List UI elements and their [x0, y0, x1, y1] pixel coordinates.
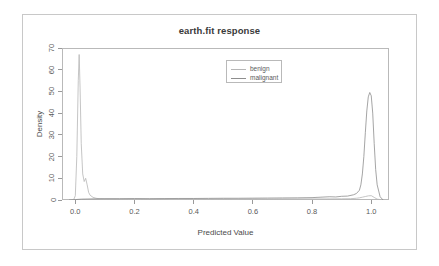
x-tick-mark: [371, 200, 372, 204]
y-tick-label: 60: [46, 66, 55, 74]
chart-screenshot: earth.fit response Density Predicted Val…: [0, 0, 439, 266]
y-tick-mark: [58, 134, 62, 135]
y-tick-label: 30: [46, 131, 55, 139]
y-tick-label: 20: [46, 152, 55, 160]
y-tick-mark: [58, 91, 62, 92]
legend-label: malignant: [250, 74, 278, 82]
density-curve-malignant: [69, 93, 383, 200]
x-tick-label: 0.0: [70, 207, 80, 216]
chart-title: earth.fit response: [0, 25, 439, 36]
x-axis-label: Predicted Value: [62, 228, 389, 237]
legend-item-malignant: malignant: [231, 74, 278, 82]
y-axis-label: Density: [35, 111, 44, 138]
legend-label: benign: [250, 65, 270, 73]
y-tick-label: 0: [48, 198, 57, 202]
x-tick-mark: [252, 200, 253, 204]
y-tick-label: 70: [46, 44, 55, 52]
y-tick-label: 40: [46, 109, 55, 117]
legend-swatch-line: [231, 78, 246, 79]
x-tick-mark: [134, 200, 135, 204]
y-tick-mark: [58, 48, 62, 49]
y-tick-mark: [58, 113, 62, 114]
y-tick-mark: [58, 200, 62, 201]
x-tick-label: 1.0: [366, 207, 376, 216]
chart-legend: benignmalignant: [226, 60, 282, 83]
x-tick-mark: [312, 200, 313, 204]
y-tick-label: 50: [46, 87, 55, 95]
y-tick-mark: [58, 156, 62, 157]
y-tick-label: 10: [46, 174, 55, 182]
x-tick-mark: [75, 200, 76, 204]
plot-area: 010203040506070 0.00.20.40.60.81.0 benig…: [62, 48, 389, 200]
x-tick-label: 0.2: [129, 207, 139, 216]
x-tick-label: 0.8: [307, 207, 317, 216]
legend-swatch-line: [231, 69, 246, 70]
legend-item-benign: benign: [231, 65, 270, 73]
x-tick-label: 0.4: [188, 207, 198, 216]
x-tick-mark: [193, 200, 194, 204]
y-tick-mark: [58, 69, 62, 70]
x-tick-label: 0.6: [248, 207, 258, 216]
y-tick-mark: [58, 178, 62, 179]
